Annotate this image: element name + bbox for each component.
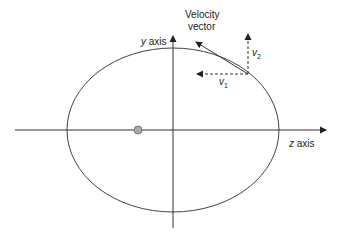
- v1-label: v1: [219, 76, 228, 89]
- z-axis-label: z axis: [288, 138, 315, 149]
- focus-body-dot: [134, 126, 142, 134]
- velocity-vector-arrow: [196, 42, 248, 74]
- v1-subscript: 1: [224, 82, 228, 89]
- velocity-vector-label-line2: vector: [188, 21, 216, 32]
- z-axis-word: axis: [294, 138, 315, 149]
- y-axis-word: axis: [146, 36, 167, 47]
- v2-label: v2: [252, 47, 261, 60]
- velocity-vector-label-line1: Velocity: [185, 9, 219, 20]
- y-axis-label: y axis: [140, 36, 167, 47]
- v2-subscript: 2: [257, 53, 261, 60]
- orbit-diagram: Velocity vector y axis z axis v2 v1: [0, 0, 346, 236]
